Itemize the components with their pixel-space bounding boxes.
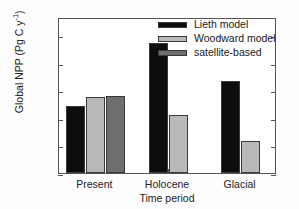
y-axis-tick-left (58, 147, 63, 148)
y-axis-title-text: Global NPP (Pg C y (13, 21, 25, 114)
chart-figure: Global NPP (Pg C y-1) 020406080100 Prese… (0, 0, 299, 209)
legend-swatch (158, 22, 187, 28)
y-axis-tick-right (271, 92, 276, 93)
bar (221, 81, 240, 173)
x-axis-title: Time period (58, 192, 276, 204)
y-axis-tick-left (58, 92, 63, 93)
y-axis-tick-left (58, 175, 63, 176)
y-axis-tick-right (271, 120, 276, 121)
x-axis-tick-label: Holocene (127, 178, 207, 190)
y-axis-tick-right (271, 147, 276, 148)
y-axis-title-suffix: ) (13, 10, 25, 14)
bar (169, 115, 188, 173)
chart-legend: Lieth modelWoodward modelsatellite-based (156, 16, 278, 62)
legend-item: Woodward model (158, 32, 276, 45)
legend-item: satellite-based (158, 46, 276, 59)
y-axis-tick-left (58, 37, 63, 38)
y-axis-tick-right (271, 175, 276, 176)
bar (149, 43, 168, 173)
bar (66, 106, 85, 173)
legend-label: Woodward model (194, 32, 276, 45)
y-axis-tick-left (58, 65, 63, 66)
bar (106, 96, 125, 173)
legend-item: Lieth model (158, 18, 276, 31)
x-axis-tick-label: Present (54, 178, 134, 190)
bar (86, 97, 105, 173)
y-axis-tick-right (271, 65, 276, 66)
y-axis-title-exponent: -1 (11, 14, 20, 21)
legend-swatch (158, 50, 187, 56)
legend-label: Lieth model (194, 18, 248, 31)
legend-label: satellite-based (194, 46, 262, 59)
y-axis-tick-left (58, 120, 63, 121)
legend-swatch (158, 36, 187, 42)
x-axis-tick-label: Glacial (200, 178, 280, 190)
y-axis-title: Global NPP (Pg C y-1) (11, 0, 25, 137)
bar (241, 141, 260, 173)
